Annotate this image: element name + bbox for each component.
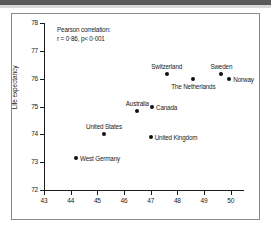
x-axis-tick — [97, 191, 98, 195]
data-point-marker — [165, 72, 169, 76]
data-point-marker — [150, 105, 154, 109]
y-axis-tick-label: 78 — [22, 19, 38, 26]
y-axis-tick-label: 73 — [22, 158, 38, 165]
y-axis-tick-label: 72 — [22, 186, 38, 193]
x-axis-line — [44, 190, 244, 191]
data-point-marker — [135, 109, 139, 113]
data-point-label: The Netherlands — [171, 83, 215, 90]
data-point-marker — [227, 77, 231, 81]
data-point-marker — [74, 156, 78, 160]
data-point-label: Switzerland — [151, 63, 182, 70]
data-point-label: West Germany — [80, 154, 120, 161]
data-point-label: Norway — [233, 75, 253, 82]
x-axis-tick — [124, 191, 125, 195]
x-axis-tick-label: 44 — [63, 197, 79, 204]
data-point-marker — [102, 132, 106, 136]
y-axis-tick — [40, 51, 44, 52]
correlation-annotation-stat: r = 0·86, p< 0·001 — [57, 34, 110, 43]
x-axis-tick-label: 45 — [89, 197, 105, 204]
x-axis-tick — [71, 191, 72, 195]
figure-screenshot: Life expectancy Pearson correlation: r =… — [0, 0, 271, 232]
y-axis-tick — [40, 79, 44, 80]
x-axis-tick — [231, 191, 232, 195]
data-point-label: Canada — [156, 103, 177, 110]
x-axis-tick-label: 46 — [116, 197, 132, 204]
x-axis-tick-label: 48 — [169, 197, 185, 204]
scatter-plot: Life expectancy Pearson correlation: r =… — [0, 0, 271, 232]
x-axis-tick — [177, 191, 178, 195]
data-point-label: Australia — [126, 100, 149, 107]
y-axis-tick-label: 74 — [22, 130, 38, 137]
y-axis-tick — [40, 162, 44, 163]
correlation-annotation-title: Pearson correlation: — [57, 25, 110, 34]
x-axis-tick — [44, 191, 45, 195]
x-axis-tick-label: 49 — [196, 197, 212, 204]
data-point-label: Sweden — [210, 63, 232, 70]
correlation-annotation: Pearson correlation: r = 0·86, p< 0·001 — [57, 25, 110, 43]
x-axis-tick — [204, 191, 205, 195]
y-axis-tick-label: 75 — [22, 103, 38, 110]
y-axis-tick — [40, 23, 44, 24]
data-point-label: United Kingdom — [155, 134, 198, 141]
y-axis-tick — [40, 107, 44, 108]
y-axis-line — [44, 23, 45, 191]
data-point-marker — [219, 72, 223, 76]
y-axis-tick — [40, 134, 44, 135]
data-point-marker — [191, 77, 195, 81]
y-axis-title: Life expectancy — [11, 48, 18, 128]
x-axis-tick-label: 50 — [223, 197, 239, 204]
y-axis-tick-label: 77 — [22, 47, 38, 54]
x-axis-tick — [151, 191, 152, 195]
x-axis-tick-label: 47 — [143, 197, 159, 204]
data-point-marker — [149, 135, 153, 139]
data-point-label: United States — [86, 123, 122, 130]
y-axis-tick-label: 76 — [22, 75, 38, 82]
x-axis-tick-label: 43 — [36, 197, 52, 204]
